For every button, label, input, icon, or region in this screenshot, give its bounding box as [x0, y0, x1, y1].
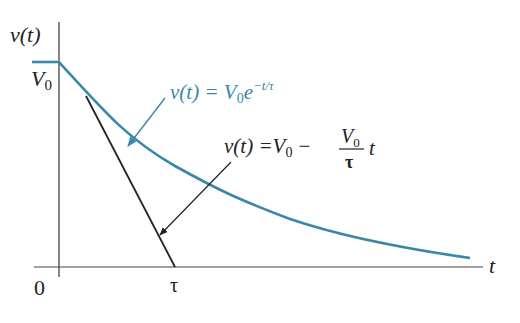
- y-axis-label: v(t): [10, 22, 41, 47]
- tangent-equation-tail: t: [369, 136, 376, 160]
- tangent-fraction-numerator: V0: [341, 125, 360, 150]
- tangent-fraction-denominator: τ: [345, 152, 354, 172]
- x-axis-label: t: [489, 253, 496, 278]
- tangent-arrow: [160, 162, 231, 235]
- tangent-equation-lhs: v(t) =V0−: [224, 134, 310, 160]
- origin-label: 0: [34, 275, 45, 300]
- diagram-canvas: v(t) t 0 τ V0 v(t) = V0e−t/τ v(t) =V0− V…: [0, 0, 520, 323]
- exponential-equation: v(t) = V0e−t/τ: [170, 78, 275, 106]
- tangent-line: [86, 96, 175, 267]
- exponential-arrow: [128, 98, 165, 146]
- v0-level-label: V0: [31, 66, 52, 93]
- tau-tick-label: τ: [170, 274, 178, 296]
